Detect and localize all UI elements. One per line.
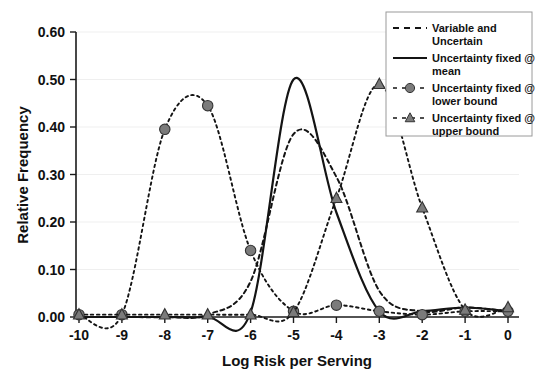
x-tick-label: -6: [244, 327, 257, 343]
data-point-marker: [331, 300, 341, 310]
legend-label-line2: lower bound: [432, 95, 497, 107]
y-tick-label: 0.00: [38, 309, 65, 325]
x-axis-title: Log Risk per Serving: [222, 352, 372, 369]
data-point-marker: [245, 245, 255, 255]
legend: Variable andUncertainUncertainty fixed @…: [386, 12, 535, 137]
x-tick-label: -7: [201, 327, 214, 343]
x-tick-label: -9: [116, 327, 129, 343]
x-tick-label: -2: [416, 327, 429, 343]
x-tick-label: -10: [69, 327, 89, 343]
legend-label-line2: upper bound: [432, 125, 499, 137]
x-tick-label: 0: [504, 327, 512, 343]
legend-sample-circle-marker: [405, 83, 414, 92]
legend-label-line1: Uncertainty fixed @: [432, 112, 535, 124]
y-tick-label: 0.30: [38, 167, 65, 183]
chart-figure: 0.000.100.200.300.400.500.60 -10-9-8-7-6…: [0, 0, 539, 379]
data-point-marker: [417, 309, 427, 319]
data-point-marker: [160, 124, 170, 134]
chart-svg: 0.000.100.200.300.400.500.60 -10-9-8-7-6…: [0, 0, 539, 379]
x-tick-label: -5: [287, 327, 300, 343]
y-tick-label: 0.50: [38, 72, 65, 88]
y-tick-label: 0.40: [38, 119, 65, 135]
y-tick-label: 0.10: [38, 262, 65, 278]
x-tick-label: -1: [459, 327, 472, 343]
legend-label-line1: Uncertainty fixed @: [432, 82, 535, 94]
y-tick-label: 0.60: [38, 24, 65, 40]
legend-label-line1: Variable and: [432, 22, 497, 34]
x-tick-label: -4: [330, 327, 343, 343]
y-tick-label: 0.20: [38, 214, 65, 230]
legend-label-line2: Uncertain: [432, 35, 483, 47]
data-point-marker: [203, 100, 213, 110]
data-point-marker: [374, 306, 384, 316]
x-tick-label: -3: [373, 327, 386, 343]
y-axis-title: Relative Frequency: [14, 106, 31, 244]
x-tick-label: -8: [159, 327, 172, 343]
legend-label-line2: mean: [432, 65, 461, 77]
legend-label-line1: Uncertainty fixed @: [432, 52, 535, 64]
